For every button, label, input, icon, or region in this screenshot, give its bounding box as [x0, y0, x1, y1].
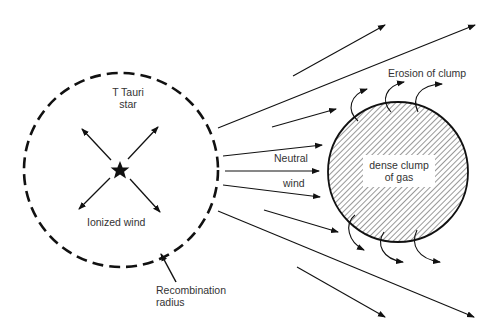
- wind-label: wind: [283, 177, 305, 189]
- star-label-line2: star: [103, 98, 153, 110]
- clump-label-line1: dense clump: [369, 159, 429, 171]
- recombination-pointer-arrow: [161, 254, 176, 282]
- clump-label-line2: of gas: [369, 171, 429, 183]
- recombination-label-line2: radius: [156, 296, 226, 308]
- erosion-label: Erosion of clump: [388, 67, 466, 79]
- recombination-label: Recombination radius: [156, 284, 226, 308]
- star-icon: [111, 161, 130, 178]
- neutral-label: Neutral: [274, 152, 308, 164]
- star-label: T Tauri star: [103, 86, 153, 110]
- recombination-label-line1: Recombination: [156, 284, 226, 296]
- star-label-line1: T Tauri: [103, 86, 153, 98]
- clump-label: dense clump of gas: [363, 155, 435, 187]
- ionized-wind-label: Ionized wind: [87, 216, 145, 228]
